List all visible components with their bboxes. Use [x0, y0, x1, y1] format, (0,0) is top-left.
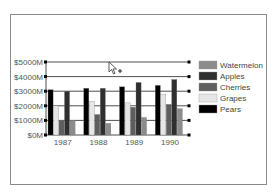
legend-swatch-watermelon	[199, 61, 217, 69]
legend-swatch-apples	[199, 72, 217, 80]
x-tick-label: 1990	[161, 138, 179, 147]
y-tick-label: $1000M	[14, 116, 43, 125]
bar-grapes-1988[interactable]	[89, 101, 94, 135]
legend-label-pears: Pears	[220, 105, 241, 114]
bar-pears-1988[interactable]	[84, 88, 89, 135]
bar-watermelon-1990[interactable]	[177, 109, 182, 135]
bar-cherries-1988[interactable]	[95, 115, 100, 135]
bar-apples-1988[interactable]	[100, 88, 105, 135]
y-tick-label: $4000M	[14, 73, 43, 82]
axis-handle[interactable]	[188, 90, 191, 93]
legend-label-cherries: Cherries	[220, 83, 250, 92]
legend-swatch-pears	[199, 105, 217, 113]
bar-apples-1989[interactable]	[136, 82, 141, 135]
bar-chart[interactable]: $0M$1000M$2000M$3000M$4000M$5000M1987198…	[0, 0, 277, 195]
bar-cherries-1990[interactable]	[166, 104, 171, 135]
bar-apples-1990[interactable]	[172, 80, 177, 135]
x-tick-label: 1989	[125, 138, 143, 147]
legend-swatch-cherries	[199, 83, 217, 91]
y-tick-label: $0M	[27, 131, 43, 140]
bar-pears-1990[interactable]	[155, 85, 160, 135]
axis-handle[interactable]	[44, 90, 47, 93]
bar-pears-1987[interactable]	[48, 90, 53, 135]
axis-handle[interactable]	[44, 61, 47, 64]
bar-grapes-1989[interactable]	[125, 103, 130, 135]
axis-handle[interactable]	[44, 104, 47, 107]
bar-apples-1987[interactable]	[65, 91, 70, 135]
legend-label-apples: Apples	[220, 72, 244, 81]
bar-watermelon-1989[interactable]	[142, 117, 147, 135]
bar-watermelon-1987[interactable]	[70, 120, 75, 135]
axis-handle[interactable]	[188, 119, 191, 122]
axis-handle[interactable]	[44, 119, 47, 122]
x-tick-label: 1988	[90, 138, 108, 147]
x-tick-label: 1987	[54, 138, 72, 147]
axis-handle[interactable]	[188, 75, 191, 78]
bar-cherries-1987[interactable]	[59, 120, 64, 135]
bar-watermelon-1988[interactable]	[106, 123, 111, 135]
bar-grapes-1987[interactable]	[54, 106, 59, 135]
axis-handle[interactable]	[44, 75, 47, 78]
legend-swatch-grapes	[199, 94, 217, 102]
axis-handle[interactable]	[188, 104, 191, 107]
axis-handle[interactable]	[44, 134, 47, 137]
axis-handle[interactable]	[188, 134, 191, 137]
bar-grapes-1990[interactable]	[161, 94, 166, 135]
legend-label-grapes: Grapes	[220, 94, 246, 103]
axis-handle[interactable]	[188, 61, 191, 64]
y-tick-label: $5000M	[14, 58, 43, 67]
bar-cherries-1989[interactable]	[131, 107, 136, 135]
legend-label-watermelon: Watermelon	[220, 61, 263, 70]
bar-pears-1989[interactable]	[120, 87, 125, 135]
mouse-cursor-icon	[108, 61, 124, 81]
y-tick-label: $3000M	[14, 87, 43, 96]
y-tick-label: $2000M	[14, 102, 43, 111]
